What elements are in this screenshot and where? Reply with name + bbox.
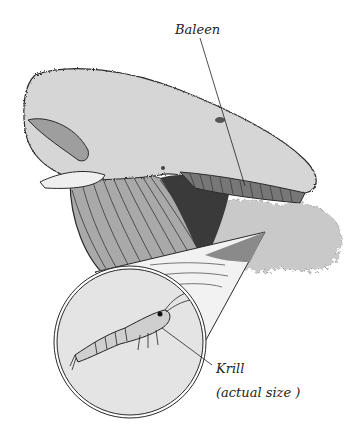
whale-krill-illustration [0,0,361,429]
krill-label: Krill [216,361,244,376]
krill-size-note: (actual size ) [216,385,300,400]
baleen-label: Baleen [175,22,220,37]
krill-inset-circle [54,266,206,418]
